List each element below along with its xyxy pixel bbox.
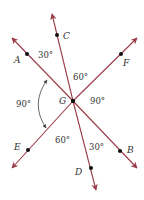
- point-D: [89, 166, 93, 170]
- angle-AGC-label: 30°: [38, 50, 53, 60]
- point-label-E: E: [13, 142, 21, 152]
- angle-arc-arrow-icon: [38, 80, 47, 128]
- geometry-figure: ACFEDB 30°60°90°90°60°30° G: [0, 0, 144, 200]
- angle-AGE-label: 90°: [16, 99, 31, 109]
- point-label-C: C: [63, 31, 70, 41]
- ray-GC: [52, 14, 73, 101]
- angle-CGF-label: 60°: [73, 72, 88, 82]
- angle-DGB-label: 30°: [89, 142, 104, 152]
- point-A: [25, 52, 29, 56]
- point-label-D: D: [74, 167, 82, 177]
- point-label-F: F: [122, 58, 130, 68]
- ray-GF: [73, 38, 137, 101]
- angle-EGD-label: 60°: [55, 135, 70, 145]
- angle-FGB-label: 90°: [90, 96, 105, 106]
- point-C: [55, 33, 59, 37]
- point-label-A: A: [13, 55, 21, 65]
- ray-GB: [73, 101, 137, 168]
- point-F: [119, 52, 123, 56]
- point-E: [26, 148, 30, 152]
- ray-GA: [12, 38, 73, 101]
- point-label-G: G: [59, 96, 66, 106]
- point-label-B: B: [126, 145, 134, 155]
- point-G: [71, 99, 75, 103]
- angle-diagram: ACFEDB 30°60°90°90°60°30° G: [0, 0, 144, 200]
- point-B: [118, 149, 122, 153]
